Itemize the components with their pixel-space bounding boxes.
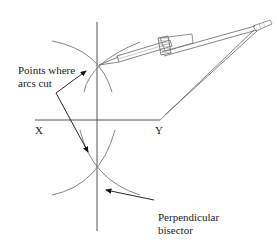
- label-point-x: X: [35, 124, 43, 136]
- upper-arc-from-x: [84, 42, 140, 92]
- label-arcs-cut-line2: arcs cut: [18, 77, 52, 89]
- label-bisector-line1: Perpendicular: [158, 211, 219, 223]
- lower-arc-from-x: [52, 130, 115, 195]
- label-arcs-cut-line1: Points where: [18, 64, 75, 76]
- label-point-y: Y: [155, 124, 163, 136]
- perpendicular-bisector-diagram: X Y Points where arcs cut Perpendicular …: [0, 0, 277, 249]
- label-bisector-line2: bisector: [158, 224, 193, 236]
- arrow-to-lower-intersection: [56, 93, 88, 152]
- lower-arc-from-y: [80, 130, 140, 195]
- compass-icon: [99, 20, 272, 120]
